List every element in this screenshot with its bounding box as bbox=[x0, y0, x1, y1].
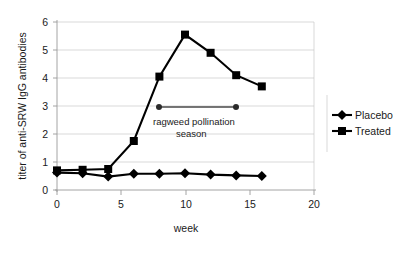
data-point-treated-12 bbox=[207, 49, 215, 57]
legend-label-treated: Treated bbox=[355, 125, 391, 137]
x-tick-label-0: 0 bbox=[54, 198, 60, 210]
y-tick-label-0: 0 bbox=[42, 184, 48, 196]
y-axis-title: titer of anti-SRW IgG antibodies bbox=[16, 32, 28, 179]
y-tick-label-1: 1 bbox=[42, 156, 48, 168]
x-tick-label-10: 10 bbox=[180, 198, 192, 210]
annotation-label-line1: ragweed pollination bbox=[153, 116, 235, 127]
y-tick-label-4: 4 bbox=[42, 72, 48, 84]
x-axis-title: week bbox=[173, 222, 199, 234]
y-tick-label-5: 5 bbox=[42, 44, 48, 56]
annotation-start-dot-icon bbox=[156, 104, 162, 110]
legend-marker-square-icon bbox=[338, 127, 346, 135]
chart-svg: 6 5 4 3 2 1 0 0 5 10 15 20 week titer of… bbox=[0, 0, 410, 254]
y-tick-label-6: 6 bbox=[42, 16, 48, 28]
chart-background bbox=[0, 0, 410, 254]
legend-label-placebo: Placebo bbox=[355, 109, 393, 121]
annotation-label-line2: season bbox=[176, 128, 207, 139]
data-point-treated-10 bbox=[181, 31, 189, 39]
y-tick-label-3: 3 bbox=[42, 100, 48, 112]
y-tick-label-2: 2 bbox=[42, 128, 48, 140]
x-tick-label-5: 5 bbox=[118, 198, 124, 210]
annotation-end-dot-icon bbox=[233, 104, 239, 110]
data-point-treated-6 bbox=[130, 137, 138, 145]
data-point-treated-16 bbox=[258, 82, 266, 90]
data-point-treated-8 bbox=[155, 73, 163, 81]
data-point-treated-14 bbox=[232, 71, 240, 79]
x-tick-label-15: 15 bbox=[244, 198, 256, 210]
chart-figure: 6 5 4 3 2 1 0 0 5 10 15 20 week titer of… bbox=[0, 0, 410, 254]
x-tick-label-20: 20 bbox=[308, 198, 320, 210]
